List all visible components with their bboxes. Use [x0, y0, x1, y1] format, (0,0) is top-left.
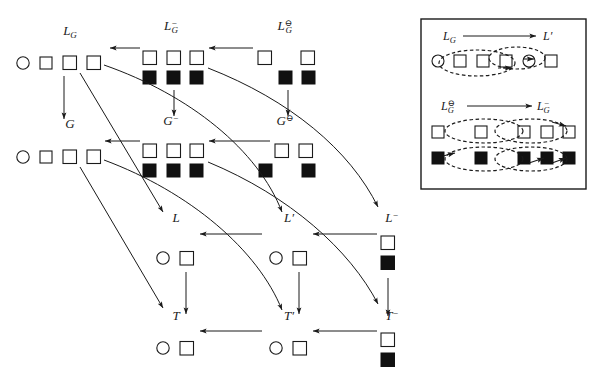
glyph-square — [180, 252, 194, 266]
glyph-square — [454, 55, 466, 67]
arrow-G-to-T — [80, 167, 163, 308]
label-Tminus: T− — [385, 308, 398, 323]
glyph-row-LGminus — [143, 51, 204, 84]
label-LGminus: L−G — [163, 18, 178, 35]
glyph-row-Gminus — [143, 144, 204, 177]
label-Tprime: T′ — [284, 308, 294, 323]
glyph-square-solid — [475, 152, 487, 164]
diagram-svg: LG L−G L⊖G G G− G⊖ L L′ L− T T′ T− LG L′ — [0, 0, 598, 372]
glyph-square — [381, 236, 395, 250]
glyph-square — [143, 144, 157, 158]
label-T: T — [172, 308, 180, 323]
label-Lminus: L− — [384, 210, 398, 225]
glyph-square — [87, 150, 101, 164]
label-LG: LG — [62, 23, 77, 40]
glyph-square — [477, 55, 489, 67]
glyph-square-solid — [143, 164, 156, 177]
glyph-row-Tminus — [381, 333, 395, 367]
glyph-row-LGominus — [258, 51, 315, 84]
glyph-row-G — [17, 150, 101, 164]
label-L: L — [171, 210, 179, 225]
arrow-LGminus-to-Lprime — [104, 65, 282, 212]
glyph-square-solid — [302, 71, 315, 84]
glyph-row-Gominus — [259, 144, 315, 177]
glyph-circle — [157, 342, 169, 354]
glyph-square-solid — [167, 164, 180, 177]
glyph-row-Lminus — [381, 236, 395, 270]
glyph-circle — [270, 342, 282, 354]
inset-label-LGminus: L−G — [536, 98, 550, 115]
inset-label-LGominus: L⊖G — [440, 98, 455, 115]
glyph-square — [167, 51, 181, 65]
glyph-square — [40, 151, 52, 163]
glyph-square — [87, 56, 101, 70]
glyph-square — [563, 126, 575, 138]
glyph-square — [275, 144, 289, 158]
glyph-circle — [270, 252, 282, 264]
label-Gominus: G⊖ — [277, 113, 294, 128]
label-Gminus: G− — [163, 113, 178, 128]
glyph-square-solid — [190, 164, 203, 177]
label-LGominus: L⊖G — [277, 18, 293, 35]
glyph-square — [190, 51, 204, 65]
glyph-square — [167, 144, 181, 158]
glyph-row-L — [157, 252, 194, 266]
inset-label-Lprime: L′ — [542, 29, 553, 43]
arrow-LG-to-L — [80, 73, 163, 212]
glyph-square — [293, 342, 307, 356]
glyph-square — [545, 55, 557, 67]
glyph-square-solid — [432, 152, 444, 164]
glyph-square-solid — [190, 71, 203, 84]
glyph-square — [63, 56, 77, 70]
arrow-LGominus-to-Lminus — [208, 68, 378, 207]
glyph-square — [381, 333, 395, 347]
glyph-row-Tprime — [270, 342, 307, 356]
glyph-square-solid — [302, 164, 315, 177]
label-G: G — [65, 116, 75, 131]
glyph-square-solid — [381, 256, 395, 270]
glyph-circle — [157, 252, 169, 264]
glyph-square-solid — [259, 164, 272, 177]
glyph-square — [40, 57, 52, 69]
figure-canvas: LG L−G L⊖G G G− G⊖ L L′ L− T T′ T− LG L′ — [0, 0, 598, 372]
glyph-circle — [17, 151, 29, 163]
glyph-square — [475, 126, 487, 138]
inset-box: LG L′ L⊖G L−G — [421, 19, 586, 189]
glyph-square-solid — [381, 353, 395, 367]
glyph-row-Lprime — [270, 252, 307, 266]
glyph-row-T — [157, 342, 194, 356]
arrow-Gminus-to-Tprime — [104, 160, 282, 310]
glyph-square — [432, 126, 444, 138]
glyph-circle — [523, 55, 535, 67]
glyph-square — [500, 55, 512, 67]
glyph-circle — [432, 55, 444, 67]
glyph-square — [299, 144, 313, 158]
glyph-square — [293, 252, 307, 266]
glyph-square — [190, 144, 204, 158]
glyph-square — [541, 126, 553, 138]
glyph-square — [301, 51, 315, 65]
glyph-circle — [17, 57, 29, 69]
glyph-square-solid — [167, 71, 180, 84]
glyph-square — [258, 51, 272, 65]
main-labels: LG L−G L⊖G G G− G⊖ L L′ L− T T′ T− — [62, 18, 399, 323]
glyph-square — [180, 342, 194, 356]
glyph-square-solid — [279, 71, 292, 84]
arrow-Gominus-to-Tminus — [208, 162, 378, 304]
glyph-row-LG — [17, 56, 101, 70]
glyph-square — [63, 150, 77, 164]
label-Lprime: L′ — [283, 210, 294, 225]
glyph-square — [143, 51, 157, 65]
